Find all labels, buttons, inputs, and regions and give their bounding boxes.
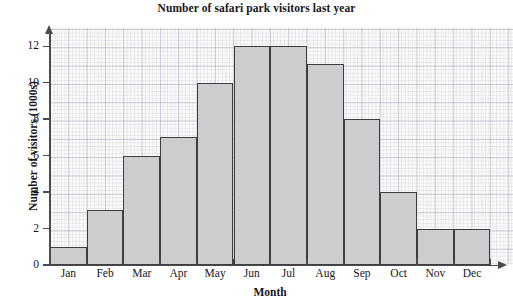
y-axis-arrow-icon bbox=[45, 25, 53, 34]
y-tick-label-0: 0 bbox=[17, 258, 39, 270]
x-tick-11 bbox=[453, 259, 454, 266]
x-axis-line bbox=[49, 265, 500, 267]
bar-feb bbox=[87, 210, 124, 265]
x-tick-9 bbox=[380, 259, 381, 266]
x-tick-5 bbox=[233, 259, 234, 266]
y-tick-8 bbox=[43, 118, 50, 119]
x-tick-7 bbox=[306, 259, 307, 266]
x-tick-label-aug: Aug bbox=[305, 267, 345, 279]
bar-jun bbox=[234, 46, 271, 265]
x-tick-0 bbox=[49, 259, 50, 266]
y-axis-title: Number of visitors (1000s) bbox=[27, 41, 39, 251]
bar-may bbox=[197, 83, 234, 265]
bar-apr bbox=[160, 137, 197, 265]
bars-container bbox=[50, 28, 513, 265]
y-tick-12 bbox=[43, 46, 50, 47]
x-axis-title: Month bbox=[50, 286, 490, 298]
x-tick-label-sep: Sep bbox=[342, 267, 382, 279]
bar-mar bbox=[123, 156, 160, 265]
y-tick-2 bbox=[43, 228, 50, 229]
x-tick-3 bbox=[159, 259, 160, 266]
bar-nov bbox=[417, 229, 454, 265]
x-tick-2 bbox=[123, 259, 124, 266]
x-tick-10 bbox=[416, 259, 417, 266]
x-tick-8 bbox=[343, 259, 344, 266]
x-tick-1 bbox=[86, 259, 87, 266]
x-tick-12 bbox=[490, 259, 491, 266]
x-tick-label-mar: Mar bbox=[122, 267, 162, 279]
y-tick-6 bbox=[43, 155, 50, 156]
bar-dec bbox=[454, 229, 491, 265]
x-tick-label-apr: Apr bbox=[158, 267, 198, 279]
y-tick-10 bbox=[43, 82, 50, 83]
x-tick-label-dec: Dec bbox=[452, 267, 492, 279]
bar-aug bbox=[307, 64, 344, 265]
x-tick-label-jul: Jul bbox=[269, 267, 309, 279]
bar-jan bbox=[50, 247, 87, 265]
x-axis-arrow-icon bbox=[498, 261, 507, 269]
y-axis-line bbox=[49, 33, 51, 266]
bar-oct bbox=[380, 192, 417, 265]
x-tick-label-jan: Jan bbox=[48, 267, 88, 279]
bar-sep bbox=[344, 119, 381, 265]
x-tick-label-may: May bbox=[195, 267, 235, 279]
x-tick-label-nov: Nov bbox=[415, 267, 455, 279]
x-tick-label-jun: Jun bbox=[232, 267, 272, 279]
bar-jul bbox=[270, 46, 307, 265]
chart-title: Number of safari park visitors last year bbox=[0, 2, 513, 14]
x-tick-6 bbox=[270, 259, 271, 266]
x-tick-label-oct: Oct bbox=[379, 267, 419, 279]
x-tick-4 bbox=[196, 259, 197, 266]
y-tick-4 bbox=[43, 191, 50, 192]
x-tick-label-feb: Feb bbox=[85, 267, 125, 279]
